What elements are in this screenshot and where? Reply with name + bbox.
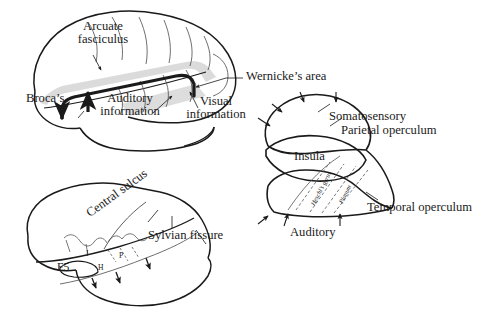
visual-info-line-2: information xyxy=(176,108,256,121)
label-arcuate-fasciculus: Arcuate fasciculus xyxy=(61,20,145,47)
label-insula: Insula xyxy=(294,150,325,163)
label-temporal-operculum: Temporal operculum xyxy=(367,201,472,214)
label-f5: F5 xyxy=(57,262,69,274)
label-visual-information: Visual information xyxy=(176,95,256,122)
arcuate-line-2: fasciculus xyxy=(61,33,145,46)
bottom-left-panel xyxy=(27,183,211,306)
label-somatosensory: Somatosensory xyxy=(329,110,406,123)
label-area-h: H xyxy=(98,264,103,272)
label-brocas-area: Broca’s xyxy=(26,92,64,105)
visual-info-line-1: Visual xyxy=(176,95,256,108)
label-wernickes-area: Wernicke’s area xyxy=(246,70,326,83)
auditory-info-line-2: information xyxy=(86,105,174,118)
label-area-p: P xyxy=(119,252,123,260)
label-area-i: I xyxy=(86,250,89,258)
label-auditory-information: Auditory information xyxy=(86,92,174,119)
label-parietal-operculum: Parietal operculum xyxy=(341,124,436,137)
label-sylvian-fissure: Sylvian fissure xyxy=(148,229,223,242)
figure-canvas: Arcuate fasciculus Broca’s Auditory info… xyxy=(0,0,478,319)
brain-diagram-svg xyxy=(0,0,478,319)
auditory-info-line-1: Auditory xyxy=(86,92,174,105)
label-auditory: Auditory xyxy=(290,226,335,239)
arcuate-line-1: Arcuate xyxy=(61,20,145,33)
